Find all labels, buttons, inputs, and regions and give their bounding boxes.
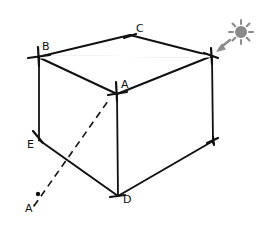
edge-E-D: [39, 140, 118, 196]
label-E: E: [27, 139, 34, 150]
label-A-prime: A': [25, 203, 36, 214]
edge-A-D: [117, 94, 118, 196]
edge-B-A: [38, 57, 117, 94]
cube-diagram: [0, 0, 269, 229]
sun-icon: [229, 20, 253, 44]
point-A-prime: [36, 192, 40, 196]
edge-topright-bottomright: [212, 56, 213, 143]
edge-D-bottomright: [118, 141, 213, 196]
edge-A-topright: [117, 56, 212, 94]
label-B: B: [42, 41, 50, 52]
label-D: D: [123, 194, 131, 205]
label-C: C: [136, 23, 144, 34]
arrow-icon: [217, 40, 230, 51]
projection-line: [34, 101, 108, 206]
label-A: A: [121, 79, 129, 90]
vertex-E-mark: [33, 131, 43, 143]
